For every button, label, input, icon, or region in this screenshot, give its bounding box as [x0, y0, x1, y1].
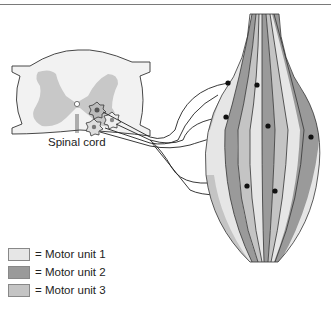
legend-swatch	[8, 266, 30, 279]
spinal-cord-cross-section	[12, 50, 150, 136]
legend-item-motor-unit-3: = Motor unit 3	[8, 281, 106, 299]
muscle	[200, 10, 330, 270]
spinal-cord-label: Spinal cord	[48, 136, 106, 148]
legend: = Motor unit 1 = Motor unit 2 = Motor un…	[8, 245, 106, 299]
legend-label: = Motor unit 3	[35, 284, 106, 296]
legend-item-motor-unit-1: = Motor unit 1	[8, 245, 106, 263]
legend-swatch	[8, 248, 30, 261]
legend-label: = Motor unit 1	[35, 248, 106, 260]
legend-item-motor-unit-2: = Motor unit 2	[8, 263, 106, 281]
legend-swatch	[8, 284, 30, 297]
legend-label: = Motor unit 2	[35, 266, 106, 278]
